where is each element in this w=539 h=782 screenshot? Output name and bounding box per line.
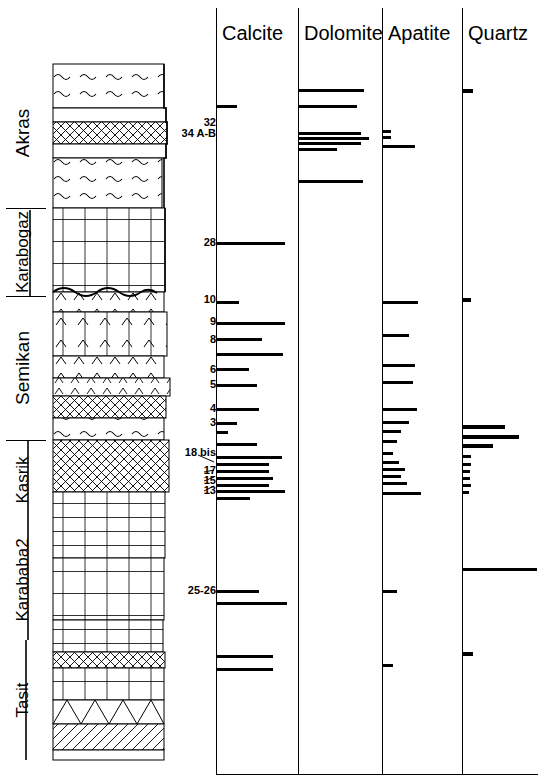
mineral-bar — [217, 456, 282, 459]
panel-title-calcite: Calcite — [222, 22, 283, 45]
mineral-bar — [217, 443, 257, 446]
mineral-bar — [383, 136, 391, 139]
mineral-bar — [383, 381, 413, 384]
mineral-bar — [463, 444, 493, 448]
mineral-bar — [217, 368, 249, 371]
mineral-bar — [463, 568, 537, 571]
mineral-bar — [383, 664, 393, 667]
mineral-bar — [463, 477, 470, 480]
panel-title-apatite: Apatite — [388, 22, 450, 45]
panel-title-quartz: Quartz — [468, 22, 528, 45]
mineral-panel-apatite: Apatite — [382, 8, 460, 774]
mineral-bar — [299, 180, 363, 183]
mineral-bar — [217, 497, 250, 500]
mineral-bar — [383, 440, 397, 443]
mineral-bar — [463, 491, 469, 494]
mineral-bar — [217, 301, 239, 304]
panel-title-dolomite: Dolomite — [304, 22, 383, 45]
mineral-bar — [217, 590, 259, 593]
mineral-bar — [463, 298, 471, 302]
mineral-bar — [463, 484, 471, 487]
mineral-bar — [383, 408, 417, 411]
mineral-bar — [217, 384, 257, 387]
panel-axis-line — [216, 8, 217, 774]
mineral-bar — [217, 477, 273, 480]
mineral-bar — [217, 322, 285, 325]
mineral-bar — [463, 470, 470, 473]
mineral-bar — [299, 132, 361, 135]
sample-leader-lines — [150, 0, 216, 782]
mineral-bar — [383, 590, 397, 593]
mineral-panel-dolomite: Dolomite — [298, 8, 380, 774]
mineral-bar — [299, 137, 369, 140]
mineral-bar — [383, 421, 409, 424]
formation-name-strip: Akras Karabogaz Semikan Kasrik Karababa2… — [0, 0, 46, 782]
mineral-panel-quartz: Quartz — [462, 8, 539, 774]
mineral-bar — [383, 145, 415, 148]
mineral-bar — [217, 490, 285, 493]
mineral-bar — [463, 425, 505, 429]
mineral-bar — [383, 468, 405, 471]
mineral-bar — [217, 408, 259, 411]
mineral-bar — [383, 301, 418, 304]
mineral-bar — [299, 89, 364, 92]
panel-axis-line — [298, 8, 299, 774]
mineral-bar — [217, 353, 283, 356]
mineral-bar — [383, 130, 391, 133]
mineral-bar — [217, 105, 237, 108]
panel-axis-line — [382, 8, 383, 774]
panel-axis-line — [462, 8, 463, 774]
mineral-bar — [217, 655, 273, 658]
mineral-bar — [217, 463, 269, 466]
mineral-bar — [383, 492, 421, 495]
mineral-bar — [217, 668, 273, 671]
mineral-bar — [383, 475, 401, 478]
mineral-bar — [217, 602, 287, 605]
mineral-panel-calcite: Calcite — [216, 8, 298, 774]
formation-strip-rule — [0, 0, 46, 782]
mineral-bar — [383, 364, 415, 367]
mineral-bar — [217, 242, 285, 245]
mineral-bar — [463, 455, 471, 458]
mineral-bar — [383, 461, 399, 464]
mineral-bar — [299, 105, 357, 108]
mineral-bar — [383, 430, 401, 433]
sample-number-gutter: 32 34 A-B 28 10 9 8 6 5 4 3 18 bis 17 15… — [150, 0, 216, 782]
mineral-bar — [463, 89, 473, 93]
mineral-bar — [463, 463, 471, 466]
mineral-bar — [217, 431, 228, 434]
mineral-bar — [217, 338, 262, 341]
mineral-bar — [383, 482, 407, 485]
mineral-bar — [383, 334, 409, 337]
mineral-bar — [463, 652, 473, 656]
mineral-bar — [383, 452, 393, 455]
mineral-bar — [217, 484, 269, 487]
mineral-bar — [217, 422, 237, 425]
mineral-bar — [299, 148, 337, 151]
stratigraphic-figure: Akras Karabogaz Semikan Kasrik Karababa2… — [0, 0, 539, 782]
plot-baseline — [216, 774, 538, 775]
mineral-bar — [463, 435, 519, 439]
mineral-bar — [299, 142, 361, 145]
mineral-bar — [217, 470, 269, 473]
